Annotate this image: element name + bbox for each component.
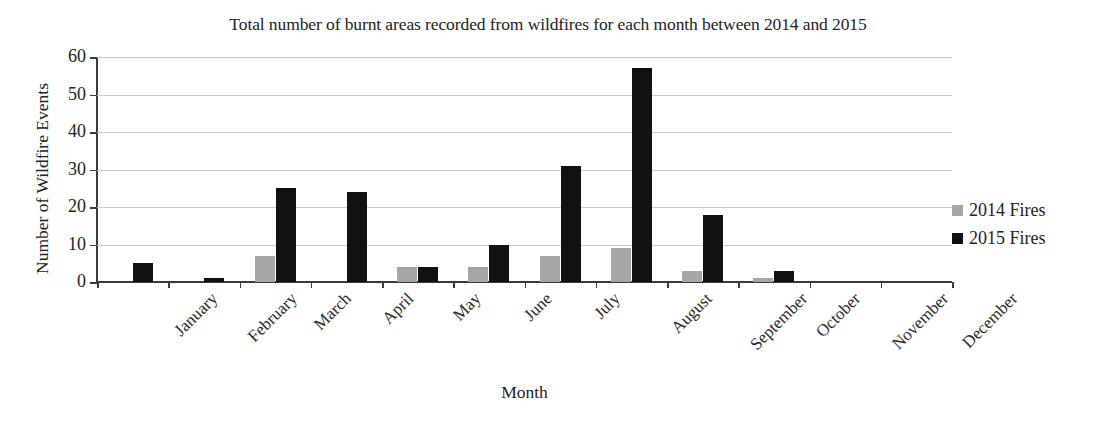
x-category-label: May [449,289,485,325]
bar-may-2014 [397,267,417,282]
x-tick-mark [168,282,170,288]
x-tick-mark [667,282,669,288]
bar-august-2014 [611,248,631,282]
bar-group [382,57,453,282]
x-tick-mark [453,282,455,288]
x-category-label: August [668,289,717,338]
x-category-label: December [959,289,1023,353]
legend-label: 2015 Fires [969,228,1046,249]
chart-legend: 2014 Fires2015 Fires [952,196,1096,252]
bar-march-2014 [255,256,275,282]
bar-july-2014 [540,256,560,282]
y-tick-mark [90,132,97,134]
y-axis-title: Number of Wildfire Events [32,59,53,299]
bar-september-2014 [682,271,702,282]
bar-group [596,57,667,282]
x-category-label: November [888,289,953,354]
bar-group [738,57,809,282]
bar-october-2014 [753,278,773,282]
x-tick-mark [952,282,954,288]
bar-june-2015 [489,245,509,283]
bar-group [881,57,952,282]
legend-swatch-icon [952,233,963,244]
bar-february-2015 [204,278,224,282]
x-tick-mark [881,282,883,288]
legend-item: 2014 Fires [952,196,1096,224]
bar-group [810,57,881,282]
y-tick-label: 50 [68,84,86,105]
y-tick-mark [90,245,97,247]
y-tick-mark [90,282,97,284]
x-tick-mark [738,282,740,288]
bar-june-2014 [468,267,488,282]
x-tick-mark [810,282,812,288]
x-category-label: September [746,289,812,355]
wildfire-bar-chart: Total number of burnt areas recorded fro… [0,0,1096,425]
bar-group [240,57,311,282]
legend-swatch-icon [952,205,963,216]
x-tick-mark [596,282,598,288]
y-tick-mark [90,207,97,209]
bar-january-2015 [133,263,153,282]
bar-may-2015 [418,267,438,282]
y-tick-label: 40 [68,121,86,142]
bar-july-2015 [561,166,581,282]
x-tick-mark [382,282,384,288]
x-tick-mark [240,282,242,288]
x-category-label: July [590,289,624,323]
legend-label: 2014 Fires [969,200,1046,221]
x-category-label: June [520,289,556,325]
bar-group [525,57,596,282]
y-tick-mark [90,170,97,172]
y-tick-mark [90,95,97,97]
legend-item: 2015 Fires [952,224,1096,252]
x-tick-mark [311,282,313,288]
y-tick-label: 0 [77,271,86,292]
chart-title: Total number of burnt areas recorded fro… [0,14,1096,35]
y-tick-label: 10 [68,234,86,255]
x-category-label: October [812,289,865,342]
bar-group [168,57,239,282]
bar-october-2015 [774,271,794,282]
y-tick-label: 30 [68,159,86,180]
plot-area: 0102030405060 [97,57,952,282]
y-tick-label: 20 [68,196,86,217]
bar-group [453,57,524,282]
bar-april-2015 [347,192,367,282]
x-category-label: April [379,289,419,329]
x-axis-title: Month [97,382,952,403]
bar-september-2015 [703,215,723,283]
x-category-label: March [310,289,356,335]
bar-group [667,57,738,282]
x-tick-mark [525,282,527,288]
bar-march-2015 [276,188,296,282]
bar-group [97,57,168,282]
y-tick-label: 60 [68,46,86,67]
bar-august-2015 [632,68,652,282]
x-category-label: February [244,289,302,347]
y-tick-mark [90,57,97,59]
x-tick-mark [97,282,99,288]
bar-group [311,57,382,282]
x-category-label: January [170,289,222,341]
